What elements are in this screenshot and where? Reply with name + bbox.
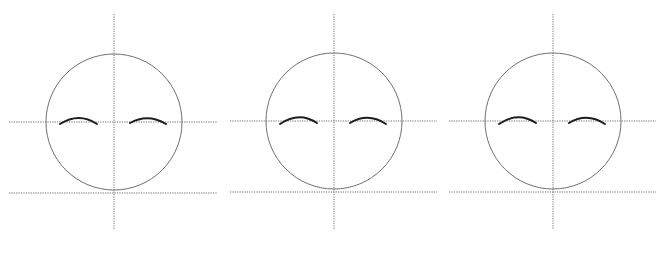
eyebrow-left — [60, 118, 97, 124]
face-panel-1 — [9, 14, 217, 229]
eyebrow-left — [280, 117, 317, 124]
face-panel-3 — [449, 14, 656, 229]
eyebrow-right — [130, 118, 166, 124]
face-panel-2 — [230, 14, 437, 229]
face-construction-diagram — [0, 0, 669, 253]
eyebrow-left — [499, 117, 536, 124]
diagram-canvas — [0, 0, 669, 253]
